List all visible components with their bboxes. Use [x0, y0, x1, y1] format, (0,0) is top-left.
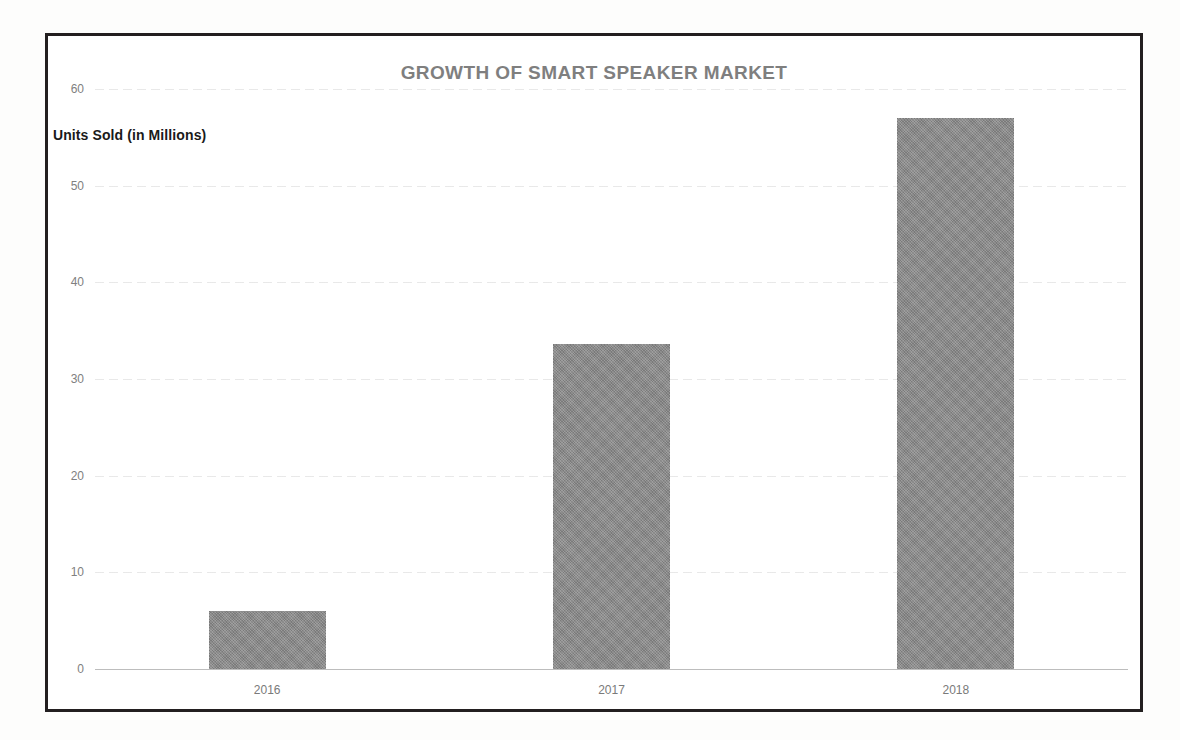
x-axis-tick-label: 2016: [95, 683, 439, 697]
chart-plot-area: GROWTH OF SMART SPEAKER MARKET Units Sol…: [48, 36, 1140, 709]
x-axis-line: [95, 669, 1128, 670]
bar-series: [48, 36, 1140, 709]
chart-frame: GROWTH OF SMART SPEAKER MARKET Units Sol…: [45, 33, 1143, 712]
x-axis-tick-label: 2017: [439, 683, 783, 697]
bar-2018: [897, 118, 1014, 669]
page-background: GROWTH OF SMART SPEAKER MARKET Units Sol…: [0, 0, 1180, 740]
x-axis-tick-label: 2018: [784, 683, 1128, 697]
bar-2016: [209, 611, 326, 669]
bar-2017: [553, 344, 670, 669]
